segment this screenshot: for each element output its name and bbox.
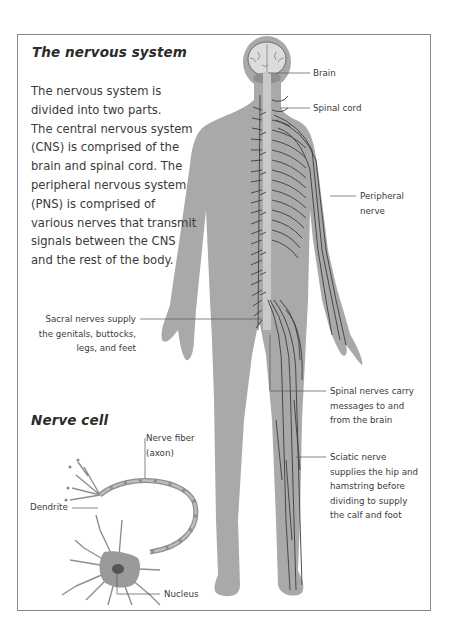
- intro-paragraph: The nervous system is divided into two p…: [31, 82, 206, 270]
- intro-line: and the rest of the body.: [31, 251, 206, 270]
- label-line: Peripheral: [360, 189, 404, 204]
- label-dendrite: Dendrite: [30, 500, 68, 515]
- label-nucleus: Nucleus: [164, 587, 199, 602]
- label-spinal-cord: Spinal cord: [313, 101, 361, 116]
- intro-line: The nervous system is: [31, 82, 206, 101]
- intro-line: peripheral nervous system: [31, 176, 206, 195]
- label-sciatic-nerve: Sciatic nerve supplies the hip and hamst…: [330, 450, 418, 523]
- label-line: hamstring before: [330, 479, 418, 494]
- intro-line: The central nervous system: [31, 120, 206, 139]
- label-line: Sacral nerves supply: [36, 312, 136, 327]
- label-line: dividing to supply: [330, 494, 418, 509]
- label-sacral-nerves: Sacral nerves supply the genitals, butto…: [36, 312, 136, 356]
- nerve-cell-drawing: [62, 438, 196, 605]
- label-line: messages to and: [330, 399, 414, 414]
- label-line: Spinal nerves carry: [330, 384, 414, 399]
- label-peripheral-nerve: Peripheral nerve: [360, 189, 404, 218]
- label-line: the calf and foot: [330, 508, 418, 523]
- intro-line: various nerves that transmit: [31, 214, 206, 233]
- intro-line: signals between the CNS: [31, 232, 206, 251]
- label-spinal-nerves: Spinal nerves carry messages to and from…: [330, 384, 414, 428]
- label-brain: Brain: [313, 66, 336, 81]
- label-line: supplies the hip and: [330, 465, 418, 480]
- intro-line: divided into two parts.: [31, 101, 206, 120]
- label-nerve-fiber: Nerve fiber (axon): [146, 431, 195, 460]
- intro-line: (PNS) is comprised of: [31, 195, 206, 214]
- label-line: from the brain: [330, 413, 414, 428]
- intro-line: (CNS) is comprised of the: [31, 138, 206, 157]
- label-line: legs, and feet: [36, 341, 136, 356]
- nerve-cell-title: Nerve cell: [31, 412, 108, 428]
- page-title: The nervous system: [32, 44, 187, 60]
- label-line: nerve: [360, 204, 404, 219]
- label-line: Nerve fiber: [146, 431, 195, 446]
- label-line: Sciatic nerve: [330, 450, 418, 465]
- intro-line: brain and spinal cord. The: [31, 157, 206, 176]
- label-line: (axon): [146, 446, 195, 461]
- label-line: the genitals, buttocks,: [36, 327, 136, 342]
